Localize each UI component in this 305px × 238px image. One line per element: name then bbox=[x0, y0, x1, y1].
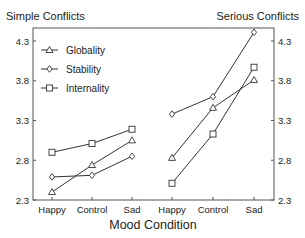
square-marker-icon bbox=[210, 131, 216, 137]
y-tick-label-left: 2.3 bbox=[16, 195, 29, 206]
square-marker-icon bbox=[129, 126, 135, 132]
y-tick-label-left: 4.3 bbox=[16, 36, 29, 47]
diamond-marker-icon bbox=[169, 111, 174, 118]
triangle-marker-icon bbox=[89, 162, 96, 168]
triangle-marker-icon bbox=[210, 104, 217, 110]
diamond-marker-icon bbox=[47, 66, 52, 73]
y-tick-label-left: 2.8 bbox=[16, 155, 29, 166]
series-line-stability bbox=[172, 32, 254, 114]
x-tick-label: Control bbox=[77, 204, 108, 215]
x-tick-label: Happy bbox=[158, 204, 186, 215]
y-tick-label-right: 2.3 bbox=[278, 195, 291, 206]
x-axis-label: Mood Condition bbox=[109, 218, 197, 232]
diamond-marker-icon bbox=[129, 153, 134, 160]
triangle-marker-icon bbox=[49, 189, 56, 195]
diamond-marker-icon bbox=[49, 174, 54, 181]
y-tick-label-right: 4.3 bbox=[278, 36, 291, 47]
left-panel-title: Simple Conflicts bbox=[6, 10, 85, 22]
triangle-marker-icon bbox=[251, 76, 258, 82]
right-panel-title: Serious Conflicts bbox=[216, 10, 299, 22]
square-marker-icon bbox=[47, 85, 53, 91]
series-line-internality bbox=[172, 67, 254, 183]
square-marker-icon bbox=[251, 64, 257, 70]
series-line-globality bbox=[172, 80, 254, 158]
x-tick-label: Sad bbox=[246, 204, 263, 215]
diamond-marker-icon bbox=[89, 172, 94, 179]
legend: GlobalityStabilityInternality bbox=[41, 45, 109, 94]
y-tick-label-left: 3.8 bbox=[16, 75, 29, 86]
legend-label: Globality bbox=[66, 45, 105, 56]
legend-label: Stability bbox=[66, 64, 101, 75]
triangle-marker-icon bbox=[129, 137, 136, 143]
y-tick-label-right: 2.8 bbox=[278, 155, 291, 166]
mood-condition-chart: Simple Conflicts Serious Conflicts 2.32.… bbox=[0, 0, 305, 238]
square-marker-icon bbox=[169, 180, 175, 186]
legend-label: Internality bbox=[66, 83, 109, 94]
x-tick-label: Happy bbox=[38, 204, 66, 215]
x-tick-label: Control bbox=[198, 204, 229, 215]
square-marker-icon bbox=[49, 149, 55, 155]
y-tick-label-right: 3.8 bbox=[278, 75, 291, 86]
y-tick-label-right: 3.3 bbox=[278, 115, 291, 126]
square-marker-icon bbox=[89, 141, 95, 147]
x-tick-label: Sad bbox=[124, 204, 141, 215]
y-tick-label-left: 3.3 bbox=[16, 115, 29, 126]
